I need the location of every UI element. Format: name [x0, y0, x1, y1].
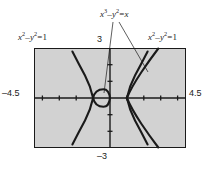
- y-axis-max-label: 3: [97, 35, 102, 44]
- hyperbola-label-left: x2–y2=1: [18, 33, 47, 42]
- cubic-curve-label: x3–y2=x: [100, 10, 129, 19]
- annotation-leader-lines: [0, 0, 216, 170]
- x-axis-min-label: –4.5: [2, 89, 20, 98]
- y-axis-min-label: –3: [97, 152, 107, 161]
- x-axis-max-label: 4.5: [189, 89, 202, 98]
- hyp-right-rhs: 1: [172, 32, 177, 42]
- figure-container: x3–y2=x x2–y2=1 x2–y2=1 3 –3 –4.5 4.5: [0, 0, 216, 170]
- cubic-label-rhs: x: [124, 9, 128, 19]
- hyperbola-label-right: x2–y2=1: [148, 33, 177, 42]
- hyp-left-rhs: 1: [42, 32, 47, 42]
